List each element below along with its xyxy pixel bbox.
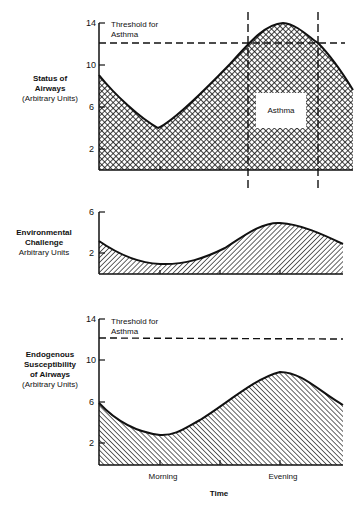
top-tick-6: 6	[89, 102, 94, 112]
top-tick-2: 2	[89, 144, 94, 154]
bot-tick-6: 6	[89, 397, 94, 407]
figure-canvas: 14 10 6 2 Threshold for Asthma Asthma 6 …	[0, 0, 358, 511]
mid-tick-6: 6	[89, 207, 94, 217]
asthma-label: Asthma	[267, 106, 295, 115]
bot-threshold-line	[99, 338, 343, 339]
chart-environmental-challenge: 6 2	[89, 207, 343, 274]
bot-threshold-label-2: Asthma	[111, 327, 139, 336]
chart-endogenous-susceptibility: 14 10 6 2 Threshold for Asthma Morning E…	[86, 314, 343, 498]
x-label-evening: Evening	[269, 472, 298, 481]
bot-threshold-label-1: Threshold for	[111, 317, 158, 326]
x-axis-title: Time	[210, 489, 229, 498]
top-threshold-label-2: Asthma	[111, 30, 139, 39]
bot-tick-14: 14	[86, 314, 96, 324]
top-tick-14: 14	[86, 18, 96, 28]
mid-tick-2: 2	[89, 248, 94, 258]
top-tick-10: 10	[86, 60, 96, 70]
bot-tick-10: 10	[86, 355, 96, 365]
top-threshold-label-1: Threshold for	[111, 20, 158, 29]
environmental-area	[99, 223, 343, 274]
bot-tick-2: 2	[89, 438, 94, 448]
status-area	[99, 23, 353, 170]
x-label-morning: Morning	[149, 472, 178, 481]
chart-status-of-airways: 14 10 6 2 Threshold for Asthma Asthma	[86, 12, 353, 188]
endogenous-area	[99, 372, 343, 465]
